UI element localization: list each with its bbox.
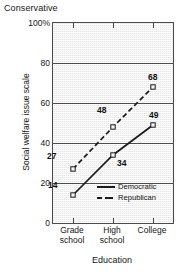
point-label-democratic-college: 49	[149, 111, 158, 120]
social-welfare-education-line-chart: Conservative 100% 80 60 40 20 0 Social w…	[0, 0, 184, 275]
x-tick-college: College	[124, 226, 180, 236]
point-label-republican-high: 48	[97, 106, 106, 115]
point-label-democratic-high: 34	[117, 159, 126, 168]
legend-item-democratic: Democratic	[97, 181, 156, 192]
point-label-republican-grade: 27	[47, 152, 56, 161]
legend: Democratic Republican	[97, 181, 156, 203]
legend-label-republican: Republican	[118, 192, 156, 203]
plot-area: 27 48 68 14 34 49 Democratic Republican	[52, 22, 174, 224]
y-axis-title: Social welfare issue scale	[21, 73, 31, 170]
point-label-republican-college: 68	[148, 73, 157, 82]
x-axis-title: Education	[52, 255, 172, 265]
dashed-line-key-icon	[97, 194, 115, 201]
y-axis-title-wrap: Social welfare issue scale	[19, 22, 33, 222]
solid-line-key-icon	[97, 183, 115, 190]
legend-label-democratic: Democratic	[118, 181, 156, 192]
point-label-democratic-grade: 14	[48, 181, 57, 190]
legend-item-republican: Republican	[97, 192, 156, 203]
